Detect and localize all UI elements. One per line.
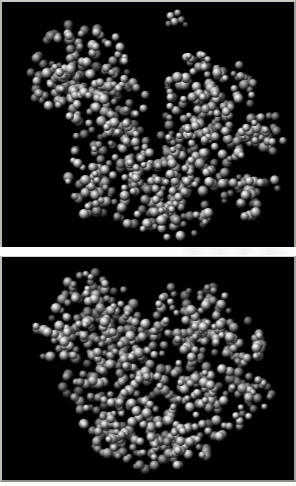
upper-molecule-svg [2, 2, 294, 247]
upper-molecule-canvas [2, 2, 294, 247]
panel-separator [0, 247, 296, 256]
scan-ghost-artifact [180, 248, 290, 255]
figure-sheet [0, 0, 296, 486]
upper-molecular-view[interactable] [0, 0, 296, 247]
lower-molecular-view[interactable] [0, 256, 296, 482]
lower-molecule-svg [2, 257, 294, 480]
lower-molecule-canvas [2, 257, 294, 480]
